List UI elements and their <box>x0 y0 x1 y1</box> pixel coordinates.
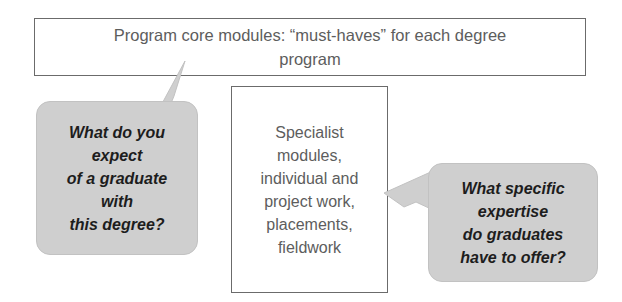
top-box-text: Program core modules: “must-haves” for e… <box>114 23 507 71</box>
speech-bubble-right-text: What specific expertise do graduates hav… <box>460 177 566 269</box>
top-box-program-core-modules: Program core modules: “must-haves” for e… <box>34 18 586 76</box>
center-box-text: Specialist modules, individual and proje… <box>261 121 359 259</box>
speech-bubble-left-text: What do you expect of a graduate with th… <box>67 121 167 236</box>
center-box-specialist-modules: Specialist modules, individual and proje… <box>231 86 388 293</box>
speech-bubble-left: What do you expect of a graduate with th… <box>36 101 198 255</box>
speech-bubble-right: What specific expertise do graduates hav… <box>428 163 598 282</box>
diagram-canvas: Program core modules: “must-haves” for e… <box>0 0 622 302</box>
